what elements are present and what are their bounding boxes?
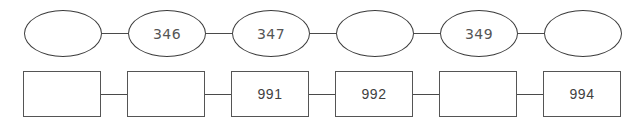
ellipse-connector-3 — [310, 33, 336, 34]
ellipse-node-6[interactable] — [544, 10, 622, 57]
rectangle-connector-2 — [205, 94, 231, 95]
rectangle-node-6[interactable]: 994 — [543, 71, 621, 117]
ellipse-connector-1 — [102, 33, 128, 34]
rectangle-chain: 991 992 994 — [23, 71, 621, 117]
rectangle-connector-3 — [309, 94, 335, 95]
rectangle-connector-5 — [517, 94, 543, 95]
rectangle-node-1[interactable] — [23, 71, 101, 117]
ellipse-node-5-label: 349 — [465, 27, 493, 41]
ellipse-connector-2 — [206, 33, 232, 34]
ellipse-connector-4 — [414, 33, 440, 34]
ellipse-node-2[interactable]: 346 — [128, 10, 206, 57]
ellipse-node-3[interactable]: 347 — [232, 10, 310, 57]
rectangle-connector-4 — [413, 94, 439, 95]
rectangle-connector-1 — [101, 94, 127, 95]
rectangle-node-3[interactable]: 991 — [231, 71, 309, 117]
ellipse-node-5[interactable]: 349 — [440, 10, 518, 57]
rectangle-node-4[interactable]: 992 — [335, 71, 413, 117]
ellipse-chain: 346 347 349 — [24, 10, 622, 57]
ellipse-node-2-label: 346 — [153, 27, 181, 41]
rectangle-node-2[interactable] — [127, 71, 205, 117]
rectangle-node-4-label: 992 — [362, 87, 387, 101]
rectangle-node-5[interactable] — [439, 71, 517, 117]
diagram-canvas: 346 347 349 991 — [0, 0, 634, 131]
ellipse-node-4[interactable] — [336, 10, 414, 57]
ellipse-node-3-label: 347 — [257, 27, 285, 41]
rectangle-node-3-label: 991 — [258, 87, 283, 101]
ellipse-node-1[interactable] — [24, 10, 102, 57]
ellipse-connector-5 — [518, 33, 544, 34]
rectangle-node-6-label: 994 — [570, 87, 595, 101]
